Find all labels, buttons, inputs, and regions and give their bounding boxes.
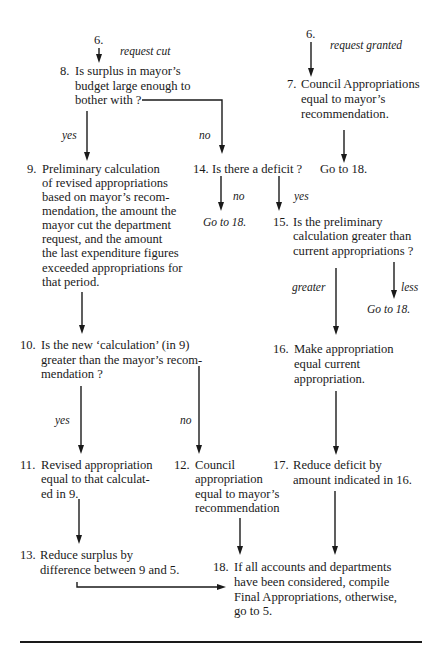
node-text-line: Council <box>195 458 235 473</box>
node-text-line: difference between 9 and 5. <box>40 563 179 578</box>
edge-label-n8-no: no <box>199 128 211 143</box>
node-text-line: equal to mayor’s <box>301 92 385 107</box>
node-text-line: recommendation. <box>301 107 389 122</box>
node-text-line: Is surplus in mayor’s <box>75 64 181 79</box>
edge-label-n14-yes: yes <box>294 189 309 204</box>
node-number: 11. <box>20 458 35 473</box>
node-text-line: the last expenditure figures <box>42 246 179 261</box>
node-number: 15. <box>273 215 289 230</box>
edge-label-n15-less: less <box>401 280 418 295</box>
node-text-line: current appropriations ? <box>293 244 413 259</box>
node-text-line: that period. <box>42 275 99 290</box>
edge-label-n14-no: no <box>233 189 245 204</box>
node-text-line: recommendation <box>195 501 280 516</box>
node-text-line: Is the preliminary <box>293 215 383 230</box>
edge-label-n15-greater: greater <box>292 280 325 295</box>
node-number: 10. <box>20 338 36 353</box>
node-number: 18. <box>213 560 229 575</box>
node-number: 13. <box>20 548 36 563</box>
entry-left-label: 6. <box>94 33 103 48</box>
edge-label-request-granted: request granted <box>330 38 402 53</box>
node-text-line: equal current <box>294 357 360 372</box>
node-text-line: mendation, the amount the <box>42 204 176 219</box>
node-15-goto-18: Go to 18. <box>367 302 410 317</box>
node-text-line: have been considered, compile <box>234 575 389 590</box>
entry-right-label: 6. <box>306 27 315 42</box>
node-text-line: Make appropriation <box>294 342 394 357</box>
node-text-line: appropriation. <box>294 372 365 387</box>
node-text-line: equal to that calculat- <box>41 472 150 487</box>
node-number: 17. <box>273 458 289 473</box>
node-number: 14. <box>193 162 209 177</box>
node-text-line: request, and the amount <box>42 232 162 247</box>
node-text-line: equal to mayor’s <box>195 487 279 502</box>
node-text-line: bother with ? <box>75 93 141 108</box>
node-number: 7. <box>287 77 296 92</box>
node-text-line: calculation greater than <box>293 229 411 244</box>
node-number: 16. <box>273 342 289 357</box>
node-text-line: exceeded appropriations for <box>42 261 183 276</box>
node-text-line: based on mayor’s recom- <box>42 190 169 205</box>
node-7-goto-18: Go to 18. <box>320 162 367 177</box>
node-text-line: appropriation <box>195 472 263 487</box>
edge-label-n8-yes: yes <box>62 128 77 143</box>
node-text-line: ed in 9. <box>41 487 78 502</box>
node-text-line: Reduce surplus by <box>40 548 133 563</box>
node-14-goto-18: Go to 18. <box>203 215 246 230</box>
node-text-line: mayor cut the department <box>42 218 171 233</box>
node-text-line: Is there a deficit ? <box>212 162 302 177</box>
node-text-line: go to 5. <box>234 604 272 619</box>
node-text-line: Reduce deficit by <box>293 458 382 473</box>
node-text-line: Final Appropriations, otherwise, <box>234 590 397 605</box>
node-number: 12. <box>174 458 190 473</box>
node-text-line: budget large enough to <box>75 79 191 94</box>
node-text-line: Council Appropriations <box>301 77 420 92</box>
node-text-line: amount indicated in 16. <box>293 473 412 488</box>
edge-label-n10-yes: yes <box>55 413 70 428</box>
edge-label-n10-no: no <box>180 413 192 428</box>
node-text-line: mendation ? <box>41 367 103 382</box>
edge-label-request-cut: request cut <box>120 44 170 59</box>
node-text-line: Is the new ‘calculation’ (in 9) <box>41 338 189 353</box>
node-text-line: Preliminary calculation <box>42 162 160 177</box>
node-text-line: If all accounts and departments <box>234 560 391 575</box>
node-text-line: greater than the mayor’s recom- <box>41 353 202 368</box>
node-text-line: of revised appropriations <box>42 176 168 191</box>
node-number: 8. <box>60 64 69 79</box>
node-number: 9. <box>27 162 36 177</box>
node-text-line: Revised appropriation <box>41 458 153 473</box>
